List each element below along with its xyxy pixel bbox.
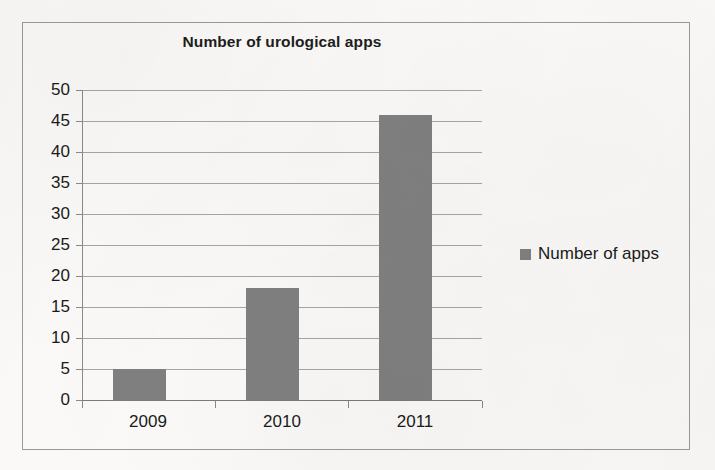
y-axis-label: 10	[30, 329, 70, 346]
x-axis-label-2010: 2010	[222, 412, 342, 432]
plot-area	[82, 90, 482, 400]
y-axis-labels: 50 45 40 35 30 25 20 15 10 5 0	[26, 0, 70, 470]
chart-screenshot: Number of urological apps 50 45 40 35 30…	[0, 0, 715, 470]
y-axis-label: 45	[30, 112, 70, 129]
x-axis-tick	[482, 401, 483, 408]
bar-2011[interactable]	[379, 115, 432, 400]
y-axis-label: 40	[30, 143, 70, 160]
legend-entry-label: Number of apps	[538, 244, 659, 264]
x-axis-label-2011: 2011	[355, 412, 475, 432]
x-axis-label-2009: 2009	[88, 412, 208, 432]
y-axis-label: 30	[30, 205, 70, 222]
x-axis-tick	[215, 401, 216, 408]
x-axis-tick	[82, 401, 83, 408]
y-axis-label: 50	[30, 81, 70, 98]
y-axis-label: 15	[30, 298, 70, 315]
x-axis-tick	[348, 401, 349, 408]
bar-2010[interactable]	[246, 288, 299, 400]
chart-legend: Number of apps	[520, 244, 659, 264]
y-axis-label: 5	[30, 360, 70, 377]
bar-2009[interactable]	[113, 369, 166, 400]
y-axis-label: 20	[30, 267, 70, 284]
y-axis-label: 25	[30, 236, 70, 253]
gridline	[82, 90, 482, 91]
chart-title: Number of urological apps	[82, 33, 482, 51]
x-axis-line	[82, 400, 482, 401]
y-axis-label: 0	[30, 391, 70, 408]
square-marker-icon	[520, 249, 531, 260]
y-axis-label: 35	[30, 174, 70, 191]
